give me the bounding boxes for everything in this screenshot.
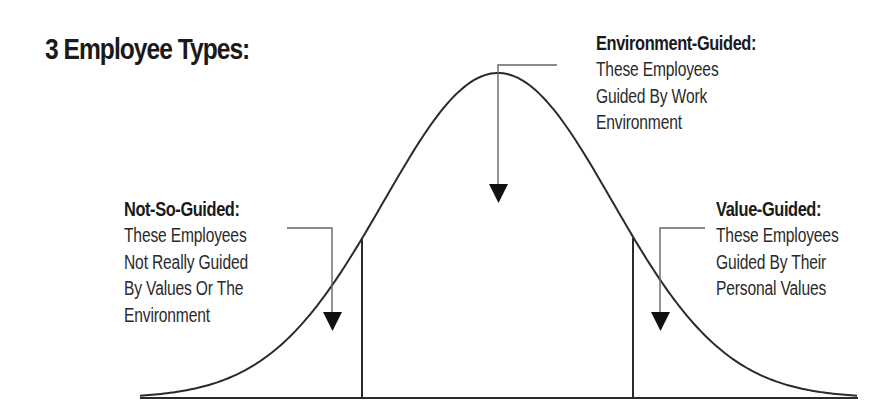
left-connector — [287, 228, 332, 314]
label-line: Environment — [596, 109, 756, 136]
label-environment-guided: Environment-Guided: These Employees Guid… — [596, 30, 756, 136]
right-connector — [660, 228, 705, 314]
label-line: By Values Or The — [124, 275, 248, 302]
label-not-so-guided: Not-So-Guided: These Employees Not Reall… — [124, 196, 248, 328]
label-line: These Employees — [124, 222, 248, 249]
label-heading: Value-Guided: — [716, 196, 839, 222]
label-value-guided: Value-Guided: These Employees Guided By … — [716, 196, 839, 302]
label-line: Personal Values — [716, 275, 839, 302]
left-arrow-icon — [323, 312, 342, 331]
label-line: These Employees — [596, 56, 756, 83]
label-heading: Environment-Guided: — [596, 30, 756, 56]
label-line: Environment — [124, 302, 248, 329]
label-heading: Not-So-Guided: — [124, 196, 248, 222]
label-line: Guided By Work — [596, 83, 756, 110]
right-arrow-icon — [651, 312, 670, 331]
label-line: Not Really Guided — [124, 249, 248, 276]
label-line: Guided By Their — [716, 249, 839, 276]
label-line: These Employees — [716, 222, 839, 249]
center-arrow-icon — [489, 184, 508, 203]
